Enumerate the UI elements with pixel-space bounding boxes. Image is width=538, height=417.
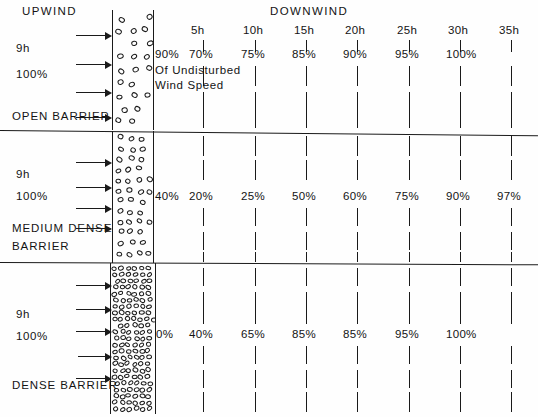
gridline-segment-5h <box>203 160 204 180</box>
dense-wind-arrow-2 <box>76 305 112 314</box>
gridline-segment-25h <box>409 110 410 128</box>
dense-value-5h: 40% <box>189 328 213 340</box>
gridline-segment-10h <box>255 136 256 156</box>
gridline-segment-10h <box>255 268 256 286</box>
gridline-segment-5h <box>203 92 204 110</box>
open-wind-arrow-1 <box>76 31 112 40</box>
gridline-segment-15h <box>306 268 307 286</box>
dense-row-speed-label: 100% <box>16 330 48 342</box>
gridline-segment-20h <box>357 208 358 226</box>
dense-value-30h: 100% <box>446 328 477 340</box>
gridline-segment-5h <box>203 208 204 226</box>
gridline-segment-15h <box>306 292 307 310</box>
open-row-height-label: 9h <box>16 42 30 54</box>
gridline-segment-15h <box>306 110 307 128</box>
station-tick-label-30h: 30h <box>448 24 468 36</box>
gridline-segment-30h <box>460 66 461 86</box>
open-wind-arrow-3 <box>76 88 112 97</box>
gridline-segment-10h <box>255 292 256 310</box>
gridline-segment-20h <box>357 346 358 364</box>
gridline-segment-20h <box>357 232 358 250</box>
dense-wind-arrow-5 <box>76 374 112 383</box>
gridline-segment-30h <box>460 208 461 226</box>
gridline-segment-5h <box>203 346 204 364</box>
medium-value-35h: 97% <box>497 190 521 202</box>
medium-value-5h: 20% <box>189 190 213 202</box>
gridline-segment-20h <box>357 268 358 286</box>
upwind-header: UPWIND <box>22 5 77 17</box>
station-tick-label-25h: 25h <box>397 24 417 36</box>
gridline-segment-10h <box>255 160 256 180</box>
barrier-column-dense <box>110 263 156 414</box>
dense-value-25h: 95% <box>395 328 419 340</box>
dense-value-15h: 85% <box>292 328 316 340</box>
medium-value-30h: 90% <box>446 190 470 202</box>
open-value-30h: 100% <box>446 48 477 60</box>
gridline-segment-30h <box>460 310 461 324</box>
gridline-segment-20h <box>357 392 358 412</box>
station-tick-label-10h: 10h <box>243 24 263 36</box>
gridline-segment-35h <box>511 252 512 262</box>
gridline-segment-25h <box>409 232 410 250</box>
downwind-header: DOWNWIND <box>270 5 348 17</box>
gridline-segment-20h <box>357 370 358 388</box>
open-value-20h: 90% <box>343 48 367 60</box>
gridline-segment-35h <box>511 370 512 388</box>
gridline-segment-30h <box>460 292 461 310</box>
gridline-segment-20h <box>357 160 358 180</box>
gridline-segment-25h <box>409 92 410 110</box>
gridline-segment-5h <box>203 136 204 156</box>
gridline-segment-5h <box>203 292 204 310</box>
gridline-segment-15h <box>306 66 307 86</box>
open-row-speed-label: 100% <box>16 68 48 80</box>
gridline-segment-30h <box>460 92 461 110</box>
gridline-segment-20h <box>357 292 358 310</box>
annotation-line-1: Of Undisturbed <box>155 64 241 76</box>
gridline-segment-15h <box>306 92 307 110</box>
gridline-segment-25h <box>409 208 410 226</box>
open-wind-arrow-2 <box>76 60 112 69</box>
gridline-segment-5h <box>203 370 204 388</box>
divider-open-medium <box>0 130 538 136</box>
medium-wind-arrow-2 <box>76 183 112 192</box>
annotation-line-2: Wind Speed <box>155 79 224 91</box>
medium-wind-arrow-3 <box>76 204 112 213</box>
open-at-barrier-value: 90% <box>155 48 179 60</box>
medium-value-25h: 75% <box>395 190 419 202</box>
gridline-segment-35h <box>511 310 512 324</box>
gridline-segment-25h <box>409 66 410 86</box>
open-value-25h: 95% <box>395 48 419 60</box>
gridline-segment-20h <box>357 66 358 86</box>
medium-row-speed-label: 100% <box>16 190 48 202</box>
station-tick-label-5h: 5h <box>191 24 204 36</box>
medium-value-15h: 50% <box>292 190 316 202</box>
gridline-segment-15h <box>306 370 307 388</box>
gridline-segment-10h <box>255 310 256 324</box>
gridline-segment-10h <box>255 370 256 388</box>
gridline-segment-20h <box>357 310 358 324</box>
gridline-segment-10h <box>255 392 256 412</box>
medium-row-height-label: 9h <box>16 168 30 180</box>
gridline-segment-35h <box>511 292 512 310</box>
gridline-segment-30h <box>460 392 461 412</box>
gridline-segment-35h <box>511 40 512 52</box>
gridline-segment-15h <box>306 232 307 250</box>
gridline-segment-30h <box>460 268 461 286</box>
open-wind-arrow-4 <box>76 113 112 122</box>
gridline-segment-25h <box>409 252 410 262</box>
open-value-10h: 75% <box>241 48 265 60</box>
gridline-segment-30h <box>460 232 461 250</box>
gridline-segment-30h <box>460 136 461 156</box>
gridline-segment-20h <box>357 136 358 156</box>
gridline-segment-15h <box>306 160 307 180</box>
gridline-segment-20h <box>357 252 358 262</box>
gridline-segment-25h <box>409 392 410 412</box>
gridline-segment-15h <box>306 310 307 324</box>
gridline-segment-25h <box>409 370 410 388</box>
gridline-segment-35h <box>511 268 512 286</box>
medium-value-20h: 60% <box>343 190 367 202</box>
gridline-segment-5h <box>203 268 204 286</box>
gridline-segment-10h <box>255 346 256 364</box>
gridline-segment-35h <box>511 208 512 226</box>
gridline-segment-5h <box>203 310 204 324</box>
